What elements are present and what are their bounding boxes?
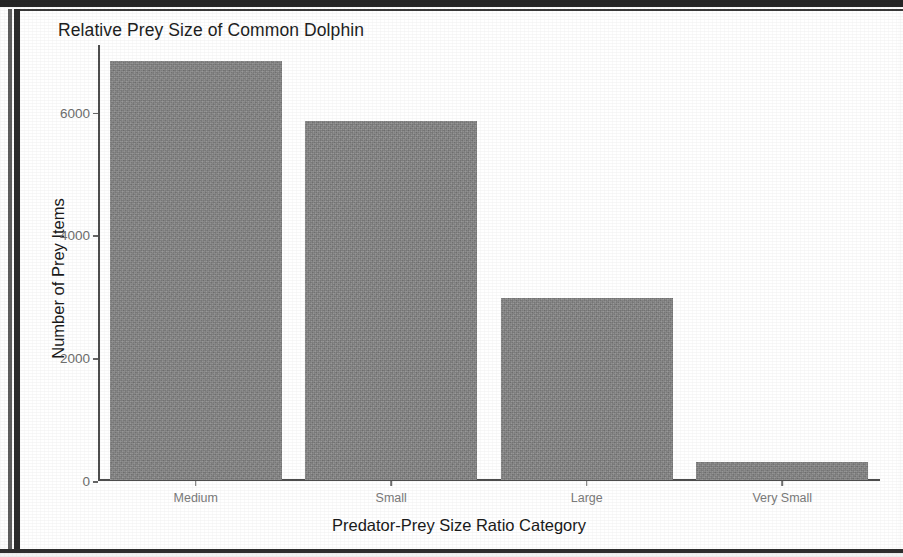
y-axis-tick-label: 2000	[60, 351, 90, 366]
bar-chart-figure: Relative Prey Size of Common Dolphin Num…	[20, 11, 898, 549]
x-axis-title: Predator-Prey Size Ratio Category	[20, 516, 898, 535]
y-axis-tick-mark	[93, 481, 98, 483]
y-axis-tick-mark	[93, 358, 98, 360]
bar	[305, 121, 477, 480]
x-axis-tick-mark	[195, 481, 197, 486]
x-axis-tick-mark	[781, 481, 783, 486]
y-axis-tick-label: 6000	[60, 105, 90, 120]
bar	[696, 462, 868, 480]
x-axis-tick-mark	[390, 481, 392, 486]
x-axis-tick-label: Medium	[174, 491, 218, 505]
y-axis-tick-label: 4000	[60, 228, 90, 243]
x-axis-tick-label: Small	[376, 491, 407, 505]
x-axis-tick-label: Large	[571, 491, 603, 505]
y-axis-line	[98, 45, 100, 481]
scanned-page: Relative Prey Size of Common Dolphin Num…	[0, 0, 903, 557]
y-axis-tick-mark	[93, 113, 98, 115]
bar	[110, 61, 282, 480]
y-axis-tick-label: 0	[82, 474, 90, 489]
page-frame-top-edge	[0, 0, 903, 7]
page-frame-left-outer-edge	[8, 9, 12, 549]
x-axis-tick-mark	[586, 481, 588, 486]
bar	[501, 298, 673, 480]
x-axis-tick-label: Very Small	[752, 491, 812, 505]
plot-panel: 0200040006000 MediumSmallLargeVery Small	[98, 45, 880, 480]
chart-title: Relative Prey Size of Common Dolphin	[58, 20, 364, 41]
y-axis-tick-mark	[93, 235, 98, 237]
page-frame-bottom-margin	[0, 553, 903, 557]
